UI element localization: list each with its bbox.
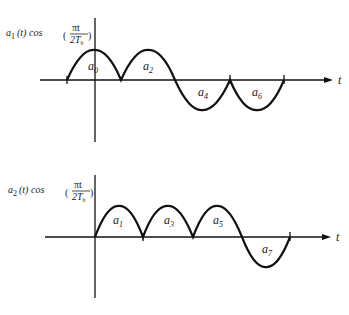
top-x-arrow-icon bbox=[324, 77, 333, 83]
top-x-label: t bbox=[338, 73, 342, 87]
svg-text:(: ( bbox=[65, 187, 69, 199]
pulse-label-a5: a5 bbox=[213, 213, 223, 229]
bottom-y-label: a2(t) cos ( πt 2Tb ) bbox=[8, 179, 93, 203]
svg-text:πt: πt bbox=[74, 179, 82, 190]
pulse-label-a3: a3 bbox=[164, 213, 174, 229]
pulse-label-a2: a2 bbox=[143, 59, 153, 75]
svg-text:(: ( bbox=[63, 30, 67, 42]
pulse-label-a6: a6 bbox=[252, 85, 262, 101]
svg-text:): ) bbox=[88, 30, 91, 42]
pulse-label-a0: a0 bbox=[88, 59, 98, 75]
pulse-label-a1: a1 bbox=[113, 213, 123, 229]
svg-text:a2(t) cos: a2(t) cos bbox=[8, 184, 44, 198]
pulse-label-a7: a7 bbox=[262, 242, 273, 258]
pulse-label-a4: a4 bbox=[198, 85, 208, 101]
top-plot: t a1(t) cos ( πt 2Tb ) a0 a2 a4 a6 bbox=[6, 18, 342, 142]
svg-text:πt: πt bbox=[72, 22, 80, 33]
svg-text:a1(t) cos: a1(t) cos bbox=[6, 27, 42, 41]
diagram-canvas: t a1(t) cos ( πt 2Tb ) a0 a2 a4 a6 t a2(… bbox=[0, 0, 349, 315]
bottom-x-arrow-icon bbox=[322, 234, 331, 240]
svg-text:2Tb: 2Tb bbox=[72, 191, 86, 203]
bottom-x-label: t bbox=[336, 230, 340, 244]
bottom-plot: t a2(t) cos ( πt 2Tb ) a1 a3 a5 a7 bbox=[8, 175, 340, 298]
svg-text:): ) bbox=[90, 187, 93, 199]
svg-text:2Tb: 2Tb bbox=[70, 34, 84, 46]
top-y-label: a1(t) cos ( πt 2Tb ) bbox=[6, 22, 91, 46]
